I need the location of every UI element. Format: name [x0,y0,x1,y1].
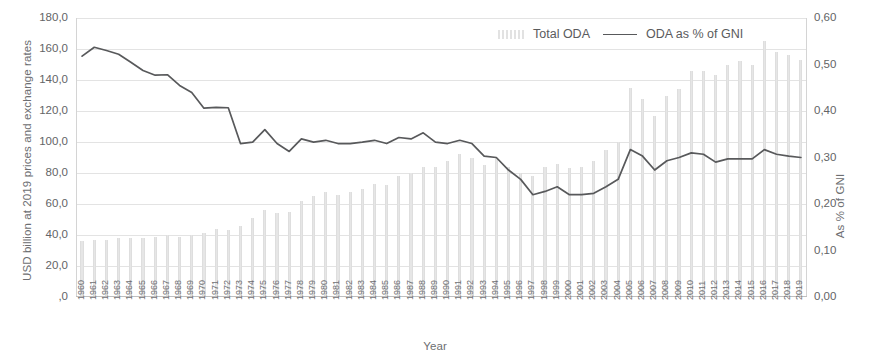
line-swatch-icon [603,34,637,35]
plot-area: 1960196119621963196419651966196719681969… [76,18,807,297]
y-axis-right-line [806,18,807,297]
x-axis-tick-label: 1974 [247,280,256,300]
x-axis-tick-label: 2007 [649,280,658,300]
y-axis-left-tick-label: ,0 [8,291,68,303]
x-axis-tick-label: 2016 [759,280,768,300]
x-axis-tick-label: 1961 [89,280,98,300]
x-axis-tick-label: 1975 [259,280,268,300]
x-axis-tick-label: 1990 [442,280,451,300]
legend-label-total-oda: Total ODA [533,27,590,41]
x-axis-tick-label: 1967 [162,280,171,300]
line-series-oda-pct-gni [76,18,807,297]
y-axis-left-tick-label: 80,0 [8,167,68,179]
y-axis-right-tick-label: 0,10 [814,245,864,257]
x-axis-tick-label: 1960 [77,280,86,300]
x-axis-title: Year [0,340,870,352]
y-axis-left-tick-label: 140,0 [8,74,68,86]
x-axis-tick-label: 1992 [466,280,475,300]
x-axis-tick-label: 1996 [515,280,524,300]
y-axis-left-tick-label: 100,0 [8,136,68,148]
chart-container: USD billion at 2019 prices and exchange … [0,0,870,360]
x-axis-tick-label: 1971 [211,280,220,300]
chart-legend: Total ODA ODA as % of GNI [498,27,743,41]
y-axis-left-tick-label: 180,0 [8,12,68,24]
x-axis-tick-label: 1985 [381,280,390,300]
bar-swatch-icon [498,30,524,39]
y-axis-right-tick-label: 0,60 [814,12,864,24]
x-axis-tick-label: 1966 [150,280,159,300]
x-axis-tick-label: 2017 [771,280,780,300]
x-axis-tick-label: 1969 [186,280,195,300]
x-axis-tick-label: 2002 [588,280,597,300]
x-axis-tick-label: 2004 [613,280,622,300]
x-axis-tick-label: 1984 [369,280,378,300]
x-axis-tick-label: 1994 [491,280,500,300]
x-axis-tick-label: 1983 [357,280,366,300]
y-axis-left-tick-label: 40,0 [8,229,68,241]
x-axis-tick-label: 1986 [393,280,402,300]
x-axis-tick-label: 2006 [637,280,646,300]
x-axis-tick-label: 1972 [223,280,232,300]
x-axis-tick-label: 1987 [406,280,415,300]
x-axis-tick-label: 1981 [332,280,341,300]
x-axis-tick-label: 1978 [296,280,305,300]
x-axis-tick-label: 2019 [795,280,804,300]
x-axis-tick-label: 1988 [418,280,427,300]
x-axis-tick-label: 2014 [734,280,743,300]
x-axis-tick-label: 1999 [552,280,561,300]
x-axis-tick-label: 2003 [600,280,609,300]
x-axis-tick-label: 2011 [698,281,707,300]
x-axis-tick-label: 1991 [454,280,463,300]
x-axis-tick-label: 1997 [527,280,536,300]
x-axis-tick-label: 2008 [661,280,670,300]
y-axis-right-tick-label: 0,40 [814,105,864,117]
x-axis-tick-label: 2018 [783,280,792,300]
x-axis-tick-label: 1965 [138,280,147,300]
legend-item-total-oda[interactable]: Total ODA [498,27,590,41]
x-axis-tick-label: 1970 [198,280,207,300]
legend-label-oda-pct-gni: ODA as % of GNI [646,27,743,41]
x-axis-tick-label: 1962 [101,280,110,300]
x-axis-tick-label: 1989 [430,280,439,300]
y-axis-right-tick-label: 0,30 [814,152,864,164]
x-axis-tick-label: 1993 [479,280,488,300]
x-axis-tick-label: 1998 [540,280,549,300]
x-axis-tick-label: 2012 [710,280,719,300]
x-axis-tick-label: 1964 [125,280,134,300]
legend-item-oda-pct-gni[interactable]: ODA as % of GNI [603,27,743,41]
x-axis-tick-label: 2013 [722,280,731,300]
y-axis-left-tick-label: 120,0 [8,105,68,117]
x-axis-tick-label: 2001 [576,280,585,300]
x-axis-tick-label: 1973 [235,280,244,300]
x-axis-tick-label: 1995 [503,280,512,300]
x-axis-tick-label: 2010 [686,280,695,300]
x-axis-tick-label: 2015 [747,280,756,300]
y-axis-right-tick-label: 0,20 [814,198,864,210]
x-axis-tick-label: 1979 [308,280,317,300]
x-axis-tick-label: 2000 [564,280,573,300]
y-axis-left-tick-label: 160,0 [8,43,68,55]
y-axis-right-tick-label: 0,00 [814,291,864,303]
x-axis-tick-label: 1982 [345,280,354,300]
x-axis-tick-label: 1977 [284,280,293,300]
y-axis-left-tick-label: 20,0 [8,260,68,272]
y-axis-right-tick-label: 0,50 [814,59,864,71]
x-axis-tick-label: 1968 [174,280,183,300]
x-axis-tick-label: 2005 [625,280,634,300]
y-axis-left-tick-label: 60,0 [8,198,68,210]
x-axis-tick-label: 1963 [113,280,122,300]
y-axis-left-line [76,18,77,297]
x-axis-tick-label: 1980 [320,280,329,300]
x-axis-tick-label: 1976 [272,280,281,300]
x-axis-tick-label: 2009 [674,280,683,300]
